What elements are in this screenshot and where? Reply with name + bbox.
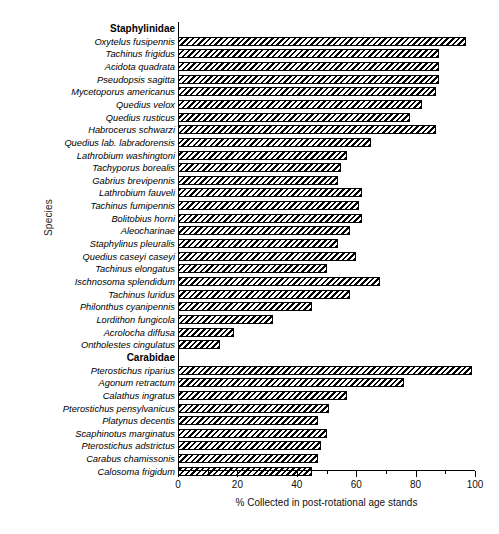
bar xyxy=(178,62,439,71)
x-tick-minor xyxy=(445,471,446,474)
x-tick-label: 80 xyxy=(396,479,436,490)
bar xyxy=(178,138,371,147)
bar-fill xyxy=(178,62,439,71)
bar-fill xyxy=(178,378,404,387)
bar-fill xyxy=(178,49,439,58)
bar xyxy=(178,315,273,324)
bar xyxy=(178,340,220,349)
bar-fill xyxy=(178,163,341,172)
x-tick-label: 40 xyxy=(277,479,317,490)
bar-fill xyxy=(178,100,422,109)
bar-fill xyxy=(178,277,380,286)
bar xyxy=(178,125,436,134)
x-tick-major xyxy=(356,471,357,477)
bar-fill xyxy=(178,416,318,425)
bar-fill xyxy=(178,340,220,349)
bar-fill xyxy=(178,87,436,96)
plot-area: StaphylinidaeOxytelus fusipennisTachinus… xyxy=(0,0,499,470)
bar xyxy=(178,163,341,172)
bar-fill xyxy=(178,302,312,311)
x-tick-label: 0 xyxy=(158,479,198,490)
bar-fill xyxy=(178,252,356,261)
bar-fill xyxy=(178,138,371,147)
bar-fill xyxy=(178,391,347,400)
bar-fill xyxy=(178,239,338,248)
bar xyxy=(178,328,234,337)
x-tick-minor xyxy=(267,471,268,474)
bar-fill xyxy=(178,264,327,273)
bar xyxy=(178,378,404,387)
bar xyxy=(178,441,321,450)
x-tick-minor xyxy=(327,471,328,474)
bar-fill xyxy=(178,404,329,413)
bar-fill xyxy=(178,125,436,134)
bar-fill xyxy=(178,429,327,438)
bar xyxy=(178,201,359,210)
bar-fill xyxy=(178,75,439,84)
x-tick-minor xyxy=(386,471,387,474)
bar-fill xyxy=(178,151,347,160)
bar xyxy=(178,37,466,46)
bar xyxy=(178,87,436,96)
bar-fill xyxy=(178,467,312,476)
bar-fill xyxy=(178,201,359,210)
bar xyxy=(178,188,362,197)
bar-fill xyxy=(178,441,321,450)
x-tick-label: 20 xyxy=(217,479,257,490)
x-tick-major xyxy=(237,471,238,477)
bar xyxy=(178,151,347,160)
bar xyxy=(178,467,312,476)
bar xyxy=(178,239,338,248)
bar xyxy=(178,366,472,375)
bar xyxy=(178,252,356,261)
bar-fill xyxy=(178,290,350,299)
bar-fill xyxy=(178,315,273,324)
bar xyxy=(178,214,362,223)
bar xyxy=(178,176,338,185)
x-tick-major xyxy=(475,471,476,477)
bar-fill xyxy=(178,328,234,337)
bar xyxy=(178,277,380,286)
chart-row: Calosoma frigidum xyxy=(0,465,499,479)
bar-fill xyxy=(178,176,338,185)
bar-fill xyxy=(178,188,362,197)
bar xyxy=(178,404,329,413)
bar xyxy=(178,454,318,463)
bar xyxy=(178,113,410,122)
bar-fill xyxy=(178,226,350,235)
y-axis-line xyxy=(178,22,179,471)
species-label: Calosoma frigidum xyxy=(97,465,178,479)
x-tick-major xyxy=(178,471,179,477)
bar-fill xyxy=(178,113,410,122)
bar-fill xyxy=(178,366,472,375)
bar xyxy=(178,49,439,58)
bar xyxy=(178,302,312,311)
x-axis-title: % Collected in post-rotational age stand… xyxy=(178,497,475,508)
bar xyxy=(178,391,347,400)
x-tick-label: 60 xyxy=(336,479,376,490)
x-tick-minor xyxy=(208,471,209,474)
bar xyxy=(178,226,350,235)
x-tick-major xyxy=(416,471,417,477)
x-tick-label: 100 xyxy=(455,479,495,490)
x-tick-major xyxy=(297,471,298,477)
chart-figure: Species StaphylinidaeOxytelus fusipennis… xyxy=(0,0,499,534)
bar xyxy=(178,416,318,425)
bar xyxy=(178,264,327,273)
bar xyxy=(178,429,327,438)
bar xyxy=(178,100,422,109)
bar-fill xyxy=(178,214,362,223)
bar xyxy=(178,290,350,299)
bar-fill xyxy=(178,37,466,46)
bar xyxy=(178,75,439,84)
bar-fill xyxy=(178,454,318,463)
